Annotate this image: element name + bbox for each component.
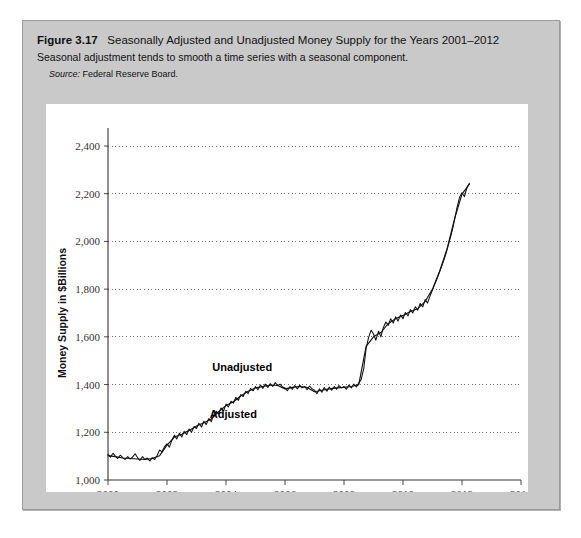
figure-source: Source: Federal Reserve Board. (49, 68, 547, 81)
x-tick-label: 2000 (97, 488, 120, 492)
y-axis-title: Money Supply in $Billions (56, 248, 68, 378)
x-tick-label: 2012 (451, 488, 473, 492)
data-series (108, 183, 469, 461)
money-supply-line-chart: 1,0001,2001,4001,6001,8002,0002,2002,400… (46, 104, 528, 492)
chart-panel: 1,0001,2001,4001,6001,8002,0002,2002,400… (46, 104, 528, 492)
source-label: Source: (49, 69, 80, 79)
series-line-unadjusted (108, 183, 469, 461)
x-axis-ticks: 20002002200420062008201020122014 (97, 480, 528, 492)
y-tick-label: 1,000 (75, 474, 100, 486)
figure-subtitle: Seasonal adjustment tends to smooth a ti… (37, 50, 547, 65)
y-tick-label: 1,400 (75, 379, 100, 391)
annotation-adjusted: Adjusted (210, 408, 257, 420)
figure-title: Figure 3.17 Seasonally Adjusted and Unad… (37, 33, 547, 48)
x-tick-label: 2006 (274, 488, 297, 492)
series-annotations: UnadjustedAdjusted (210, 361, 272, 420)
x-tick-label: 2002 (156, 488, 178, 492)
y-tick-label: 1,200 (75, 426, 100, 438)
figure-number: Figure 3.17 (37, 34, 98, 46)
x-tick-label: 2014 (510, 488, 528, 492)
y-tick-label: 2,000 (75, 235, 100, 247)
y-tick-label: 1,800 (75, 283, 100, 295)
x-tick-label: 2008 (333, 488, 356, 492)
gridlines (108, 146, 521, 432)
annotation-unadjusted: Unadjusted (212, 361, 272, 373)
series-line-adjusted (108, 184, 469, 459)
axis-lines (108, 128, 521, 480)
y-axis-ticks: 1,0001,2001,4001,6001,8002,0002,2002,400 (75, 140, 108, 486)
figure-container: Figure 3.17 Seasonally Adjusted and Unad… (22, 20, 560, 510)
y-tick-label: 2,400 (75, 140, 100, 152)
figure-caption: Figure 3.17 Seasonally Adjusted and Unad… (37, 33, 547, 81)
figure-title-text: Seasonally Adjusted and Unadjusted Money… (107, 34, 499, 46)
x-tick-label: 2010 (392, 488, 415, 492)
x-tick-label: 2004 (215, 488, 238, 492)
y-tick-label: 2,200 (75, 188, 100, 200)
source-text: Federal Reserve Board. (83, 69, 179, 79)
y-tick-label: 1,600 (75, 331, 100, 343)
